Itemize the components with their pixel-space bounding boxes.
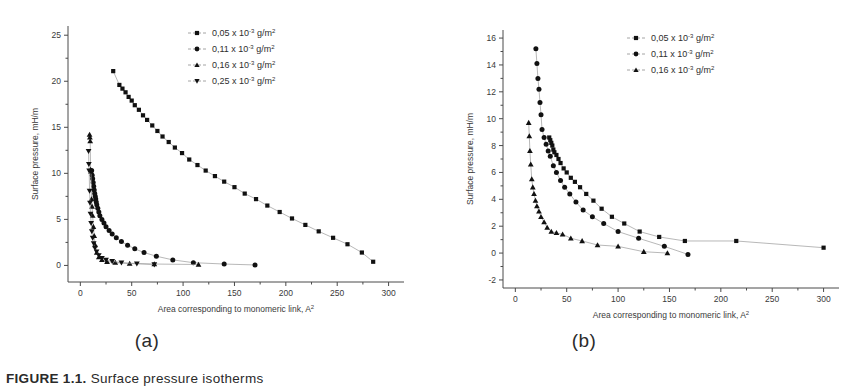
legend-item: 0,11 x 10-3 g/m2	[627, 49, 714, 59]
figure-container: 0510152025050100150200250300Surface pres…	[0, 0, 861, 388]
legend: 0,05 x 10-3 g/m20,11 x 10-3 g/m20,16 x 1…	[627, 33, 715, 75]
legend-label: 0,16 x 10-3 g/m2	[651, 65, 715, 75]
series-line	[113, 71, 373, 262]
legend-item: 0,11 x 10-3 g/m2	[188, 44, 275, 54]
series-markers	[89, 168, 257, 267]
y-tick-label: 14	[487, 60, 497, 70]
plot-area-b: -20246810121416050100150200250300Surface…	[431, 0, 861, 340]
series-line	[536, 49, 688, 255]
y-tick-label: 0	[491, 248, 496, 258]
figure-caption: FIGURE 1.1. Surface pressure isotherms	[6, 371, 264, 386]
y-axis-title: Surface pressure, mH/m	[30, 108, 40, 200]
legend-label: 0,05 x 10-3 g/m2	[212, 28, 276, 38]
legend-item: 0,16 x 10-3 g/m2	[188, 60, 276, 70]
series-markers	[533, 46, 690, 257]
x-tick-label: 50	[127, 288, 137, 298]
y-tick-label: 6	[491, 167, 496, 177]
legend-item: 0,05 x 10-3 g/m2	[188, 28, 276, 38]
y-tick-label: 12	[487, 87, 497, 97]
series-markers	[87, 132, 202, 267]
x-tick-label: 200	[714, 294, 728, 304]
y-tick-label: 2	[491, 221, 496, 231]
x-tick-label: 300	[381, 288, 395, 298]
x-tick-label: 100	[611, 294, 625, 304]
legend-item: 0,05 x 10-3 g/m2	[627, 33, 715, 43]
x-tick-label: 250	[765, 294, 779, 304]
x-tick-label: 200	[279, 288, 293, 298]
legend-label: 0,11 x 10-3 g/m2	[651, 49, 714, 59]
x-axis-title: Area corresponding to monomeric link, A2	[593, 310, 750, 320]
x-tick-label: 50	[562, 294, 572, 304]
chart-panel-b: -20246810121416050100150200250300Surface…	[431, 0, 861, 340]
y-tick-label: 20	[52, 76, 62, 86]
x-tick-label: 0	[78, 288, 83, 298]
y-tick-label: 0	[56, 260, 61, 270]
legend-label: 0,11 x 10-3 g/m2	[212, 44, 275, 54]
legend: 0,05 x 10-3 g/m20,11 x 10-3 g/m20,16 x 1…	[188, 28, 276, 86]
x-axis-title: Area corresponding to monomeric link, A2	[158, 304, 315, 314]
caption-prefix: FIGURE 1.1.	[6, 371, 87, 386]
caption-text: Surface pressure isotherms	[87, 371, 264, 386]
y-axis-title: Surface pressure, mH/m	[465, 113, 475, 205]
panel-label-b: (b)	[369, 330, 799, 352]
x-tick-label: 250	[330, 288, 344, 298]
plot-area-a: 0510152025050100150200250300Surface pres…	[0, 0, 430, 340]
y-tick-label: 5	[56, 214, 61, 224]
x-tick-label: 150	[227, 288, 241, 298]
x-tick-label: 300	[816, 294, 830, 304]
y-tick-label: 10	[487, 114, 497, 124]
chart-panel-a: 0510152025050100150200250300Surface pres…	[0, 0, 430, 340]
legend-item: 0,25 x 10-3 g/m2	[188, 76, 276, 86]
y-tick-label: 4	[491, 194, 496, 204]
legend-item: 0,16 x 10-3 g/m2	[627, 65, 715, 75]
y-tick-label: 25	[52, 30, 62, 40]
series-markers	[547, 135, 826, 249]
y-tick-label: -2	[488, 275, 496, 285]
y-tick-label: 15	[52, 122, 62, 132]
x-tick-label: 150	[662, 294, 676, 304]
legend-label: 0,05 x 10-3 g/m2	[651, 33, 715, 43]
y-tick-label: 8	[491, 141, 496, 151]
x-tick-label: 0	[513, 294, 518, 304]
y-tick-label: 16	[487, 33, 497, 43]
legend-label: 0,16 x 10-3 g/m2	[212, 60, 276, 70]
series-markers	[111, 69, 375, 264]
x-tick-label: 100	[176, 288, 190, 298]
legend-label: 0,25 x 10-3 g/m2	[212, 76, 276, 86]
y-tick-label: 10	[52, 168, 62, 178]
panel-label-a: (a)	[0, 330, 362, 352]
series-markers	[526, 120, 670, 255]
series-line	[549, 138, 823, 248]
